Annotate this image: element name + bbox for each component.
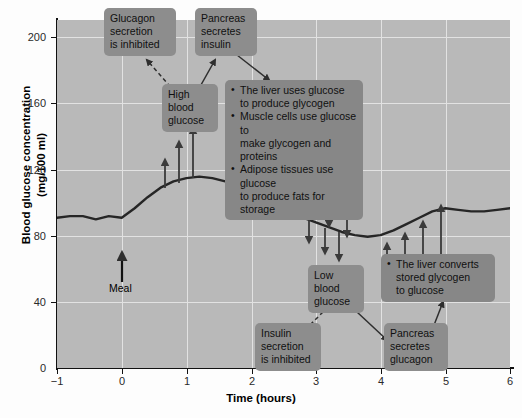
callout-line: blood <box>168 101 212 114</box>
connector-pancreas-insulin-to-effects <box>237 55 269 80</box>
callout-line: stored glycogen <box>396 271 470 283</box>
y-tick-label-40: 40 <box>6 296 46 308</box>
callout-line: The liver converts <box>396 258 479 270</box>
callout-insulin-effects: The liver uses glucose to produce glycog… <box>225 80 363 220</box>
callout-line: glucagon <box>390 353 442 366</box>
x-tick-label-1: 1 <box>172 375 202 387</box>
x-tick-0 <box>122 369 123 374</box>
callout-line: insulin <box>201 38 251 51</box>
callout-line: secretion <box>110 25 170 38</box>
x-axis-label: Time (hours) <box>0 392 522 404</box>
y-tick-label-200: 200 <box>6 31 46 43</box>
callout-bullet: Muscle cells use glucose to make glycoge… <box>231 110 357 163</box>
callout-line: The liver uses glucose <box>240 84 344 96</box>
callout-glucagon-inhibited: Glucagon secretion is inhibited <box>104 8 176 56</box>
callout-line: Pancreas <box>201 12 251 25</box>
callout-line: Muscle cells use glucose to <box>240 110 356 135</box>
callout-line: secretes <box>390 340 442 353</box>
callout-low-blood-glucose: Low blood glucose <box>308 265 364 313</box>
callout-line: Adipose tissues use glucose <box>240 163 333 188</box>
callout-bullet: The liver converts stored glycogen to gl… <box>387 258 489 298</box>
x-tick-label--1: −1 <box>42 375 72 387</box>
callout-line: to produce glycogen <box>240 97 335 109</box>
blood-glucose-regulation-figure: Blood glucose concentration (mg/100 ml) … <box>0 0 522 418</box>
callout-line: secretes <box>201 25 251 38</box>
x-tick-4 <box>381 369 382 374</box>
callout-line: make glycogen and proteins <box>240 137 331 162</box>
callout-bullet: Adipose tissues use glucose to produce f… <box>231 163 357 216</box>
y-tick-label-80: 80 <box>6 230 46 242</box>
callout-line: secretion <box>261 340 315 353</box>
callout-line: Glucagon <box>110 12 170 25</box>
callout-pancreas-secretes-insulin: Pancreas secretes insulin <box>195 8 257 56</box>
callout-line: Insulin <box>261 327 315 340</box>
callout-insulin-secretion-inhibited: Insulin secretion is inhibited <box>255 323 321 371</box>
x-tick-2 <box>252 369 253 374</box>
callout-bullet: The liver uses glucose to produce glycog… <box>231 84 357 110</box>
x-tick-label-2: 2 <box>237 375 267 387</box>
x-tick-label-5: 5 <box>431 375 461 387</box>
callout-line: blood <box>314 282 358 295</box>
callout-line: is inhibited <box>110 38 170 51</box>
y-tick-label-160: 160 <box>6 97 46 109</box>
x-tick--1 <box>57 369 58 374</box>
connector-low-glucose-to-pancreas-glucagon <box>357 312 387 340</box>
x-tick-label-4: 4 <box>366 375 396 387</box>
callout-glucagon-effects: The liver converts stored glycogen to gl… <box>381 254 495 302</box>
x-tick-1 <box>187 369 188 374</box>
y-tick-label-120: 120 <box>6 164 46 176</box>
meal-label: Meal <box>109 282 132 294</box>
callout-line: High <box>168 88 212 101</box>
callout-line: is inhibited <box>261 353 315 366</box>
x-tick-6 <box>510 369 511 374</box>
callout-line: Low <box>314 269 358 282</box>
callout-line: glucose <box>314 295 358 308</box>
y-tick-label-0: 0 <box>6 362 46 374</box>
x-tick-label-3: 3 <box>301 375 331 387</box>
x-tick-label-6: 6 <box>495 375 522 387</box>
callout-pancreas-secretes-glucagon: Pancreas secretes glucagon <box>384 323 448 371</box>
x-tick-label-0: 0 <box>107 375 137 387</box>
callout-line: Pancreas <box>390 327 442 340</box>
callout-line: glucose <box>168 114 212 127</box>
callout-line: to produce fats for storage <box>240 190 325 215</box>
callout-high-blood-glucose: High blood glucose <box>162 84 218 132</box>
callout-line: to glucose <box>396 284 444 296</box>
